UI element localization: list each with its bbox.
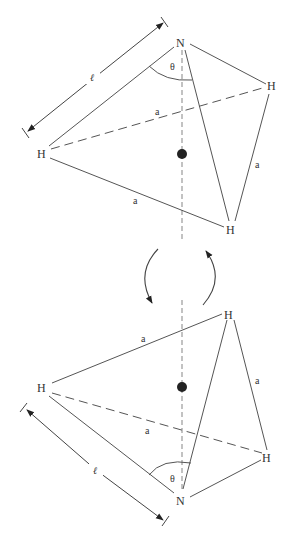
top-length-tick-upper xyxy=(161,17,168,27)
ammonia-inversion-diagram: N H H H a a a θ ℓ N H xyxy=(0,0,291,537)
top-bond-n-hright xyxy=(190,44,266,84)
top-edge-label-dashed: a xyxy=(155,106,160,117)
top-edge-hleft-hbottom xyxy=(50,158,224,227)
bottom-bond-n-hleft xyxy=(49,396,174,493)
top-edge-label-bottom: a xyxy=(133,195,138,206)
top-angle-label: θ xyxy=(170,61,175,72)
bottom-length-dimension-lower xyxy=(96,470,163,520)
top-edge-label-right: a xyxy=(255,159,260,170)
bottom-bond-n-htop xyxy=(183,320,227,489)
top-length-tick-lower xyxy=(22,128,29,138)
top-bond-n-hbottom xyxy=(185,50,229,221)
top-edge-hleft-hright-dashed xyxy=(51,87,266,149)
top-atom-n: N xyxy=(176,36,185,50)
rotation-arrow-right-icon xyxy=(203,251,215,305)
bottom-edge-hleft-htop xyxy=(52,314,222,383)
diagram-canvas: N H H H a a a θ ℓ N H xyxy=(0,0,291,537)
bottom-edge-htop-hright xyxy=(234,320,267,450)
bottom-length-label: ℓ xyxy=(93,465,97,476)
top-center-of-mass xyxy=(177,149,187,159)
bottom-angle-label: θ xyxy=(170,473,175,484)
bottom-bond-n-hright xyxy=(190,460,261,497)
top-atom-h-left: H xyxy=(37,147,46,161)
rotation-arrow-left-icon xyxy=(145,249,158,303)
top-length-dimension-lower xyxy=(28,78,94,131)
bottom-atom-h-left: H xyxy=(37,381,46,395)
top-length-label: ℓ xyxy=(90,72,94,83)
bottom-length-tick-lower xyxy=(162,516,169,526)
bottom-edge-label-top: a xyxy=(141,333,146,344)
bottom-atom-h-right: H xyxy=(262,451,271,465)
top-molecule: N H H H a a a θ ℓ xyxy=(22,17,276,241)
bottom-edge-label-right: a xyxy=(255,375,260,386)
bottom-molecule: N H H H a a a θ ℓ xyxy=(20,300,271,526)
top-atom-h-bottom: H xyxy=(226,223,235,237)
bottom-length-dimension xyxy=(27,410,96,470)
bottom-atom-h-top: H xyxy=(224,308,233,322)
rotation-arrows xyxy=(145,249,216,305)
bottom-center-of-mass xyxy=(177,382,187,392)
bottom-edge-label-dashed: a xyxy=(145,425,150,436)
top-edge-hright-hbottom xyxy=(235,94,269,221)
bottom-atom-n: N xyxy=(176,494,185,508)
top-atom-h-right: H xyxy=(267,79,276,93)
bottom-length-tick-upper xyxy=(20,403,27,412)
